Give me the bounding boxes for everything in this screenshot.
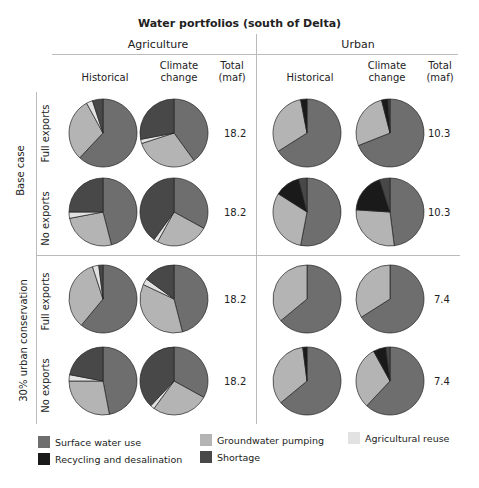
col-ag-historical: Historical — [70, 72, 140, 84]
pie-slice-shortage — [70, 347, 103, 381]
pie-agriculture-climate — [139, 177, 209, 247]
total-base-no-ag: 18.2 — [224, 207, 246, 218]
total-cons-full-ag: 18.2 — [224, 294, 246, 305]
legend-swatch — [200, 451, 212, 463]
pie-agriculture-climate — [139, 264, 209, 334]
col-urban-total: Total(maf) — [420, 60, 460, 84]
chart-title: Water portfolios (south of Delta) — [0, 17, 479, 30]
pie-agriculture-historical — [68, 177, 138, 247]
col-ag-climate: Climatechange — [148, 60, 210, 84]
pie-urban-climate — [355, 264, 425, 334]
total-base-no-urban: 10.3 — [428, 207, 450, 218]
total-base-full-urban: 10.3 — [428, 128, 450, 139]
legend-swatch — [38, 436, 50, 448]
total-base-full-ag: 18.2 — [224, 128, 246, 139]
sector-divider — [256, 34, 257, 424]
pie-slice-groundwater-pumping — [356, 210, 394, 246]
pie-agriculture-climate — [139, 98, 209, 168]
pie-slice-shortage — [140, 99, 174, 139]
legend-ag-reuse: Agricultural reuse — [348, 432, 449, 444]
legend-swatch — [38, 453, 50, 465]
pie-agriculture-historical — [68, 98, 138, 168]
pie-agriculture-historical — [68, 264, 138, 334]
pie-urban-historical — [272, 264, 342, 334]
group-agriculture: Agriculture — [60, 38, 256, 51]
header-divider — [52, 54, 458, 55]
chart-root: Water portfolios (south of Delta) Agricu… — [0, 0, 479, 488]
row-cons-no: No exports — [40, 351, 51, 421]
row-group-conservation: 30% urban conservation — [18, 271, 29, 411]
pie-agriculture-historical — [68, 346, 138, 416]
col-ag-total: Total(maf) — [212, 60, 252, 84]
total-cons-no-urban: 7.4 — [434, 376, 450, 387]
legend-groundwater: Groundwater pumping — [200, 434, 324, 446]
legend-shortage: Shortage — [200, 451, 260, 463]
pie-urban-climate — [355, 177, 425, 247]
pie-urban-historical — [272, 346, 342, 416]
pie-agriculture-climate — [139, 346, 209, 416]
row-base-no: No exports — [40, 184, 51, 254]
scenario-divider — [36, 255, 460, 256]
row-group-base: Base case — [15, 131, 26, 211]
legend-swatch — [200, 434, 212, 446]
total-cons-no-ag: 18.2 — [224, 376, 246, 387]
legend-recycling: Recycling and desalination — [38, 453, 182, 465]
group-urban: Urban — [258, 38, 458, 51]
pie-slice-groundwater-pumping — [69, 381, 109, 415]
legend-surface: Surface water use — [38, 436, 141, 448]
pie-urban-climate — [355, 98, 425, 168]
legend-swatch — [348, 432, 360, 444]
pie-slice-surface-water-use — [103, 347, 137, 414]
row-axis-line — [36, 92, 37, 424]
pie-urban-historical — [272, 177, 342, 247]
row-base-full: Full exports — [40, 99, 51, 169]
col-urban-climate: Climatechange — [356, 60, 418, 84]
pie-urban-climate — [355, 346, 425, 416]
pie-slice-shortage — [69, 178, 103, 212]
pie-urban-historical — [272, 98, 342, 168]
pie-slice-surface-water-use — [390, 178, 424, 246]
total-cons-full-urban: 7.4 — [434, 294, 450, 305]
row-cons-full: Full exports — [40, 267, 51, 337]
col-urban-historical: Historical — [275, 72, 345, 84]
